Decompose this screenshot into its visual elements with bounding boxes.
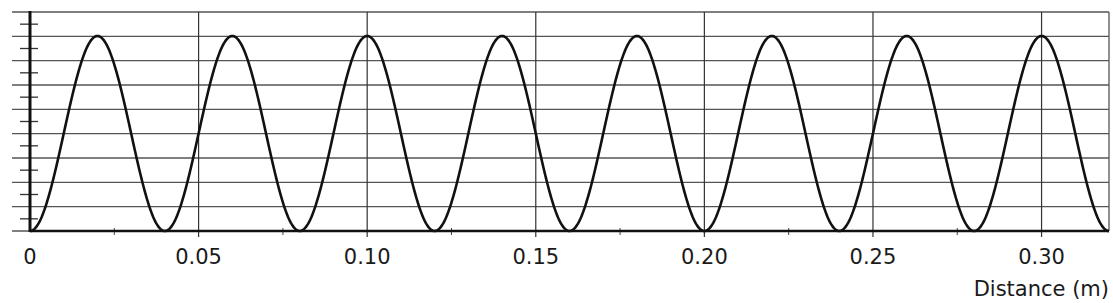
- x-tick-label: 0.30: [1018, 245, 1065, 269]
- wave-chart: 00.050.100.150.200.250.30 Distance (m): [0, 0, 1113, 303]
- x-tick-label: 0.25: [850, 245, 897, 269]
- x-tick-label: 0.05: [175, 245, 222, 269]
- horizontal-gridlines: [12, 12, 1109, 231]
- x-axis-tick-labels: 00.050.100.150.200.250.30: [23, 245, 1065, 269]
- x-tick-label: 0: [23, 245, 36, 269]
- x-tick-label: 0.15: [512, 245, 559, 269]
- x-tick-label: 0.20: [681, 245, 728, 269]
- x-tick-label: 0.10: [344, 245, 391, 269]
- x-axis-title: Distance (m): [974, 277, 1109, 301]
